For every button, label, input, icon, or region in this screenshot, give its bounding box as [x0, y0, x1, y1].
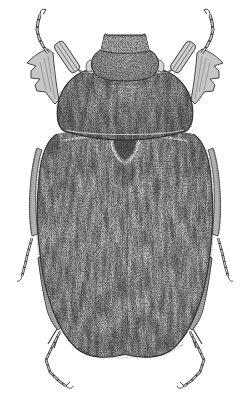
left-front-claw	[40, 9, 46, 15]
beetle-illustration	[0, 0, 250, 414]
right-front-tarsus	[202, 9, 213, 53]
left-antenna-club	[53, 40, 81, 74]
right-middle-tarsus	[218, 238, 233, 281]
left-middle-tarsus	[17, 238, 32, 281]
right-front-claw	[204, 9, 210, 15]
left-front-tarsus	[37, 9, 48, 53]
elytra	[37, 130, 212, 358]
right-antenna-club	[169, 40, 197, 74]
beetle-drawing-canvas	[0, 0, 250, 414]
beetle-head	[91, 34, 158, 85]
